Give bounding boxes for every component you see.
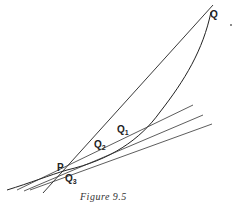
label-q1-sub: 1 [125,129,129,136]
label-p-text: P [57,162,64,173]
secant-pq2 [24,115,203,191]
diagram-svg [0,0,236,206]
label-q3-sub: 3 [73,178,77,185]
curve [7,12,211,190]
label-p: P [57,163,64,173]
figure-caption: Figure 9.5 [80,191,127,202]
label-q1-text: Q [117,124,125,135]
stray-mark [230,24,232,26]
label-q1: Q1 [117,125,129,136]
figure-9-5: Q Q1 Q2 P Q3 Figure 9.5 [0,0,236,206]
label-q3-text: Q [65,173,73,184]
label-q: Q [210,10,218,20]
label-q2: Q2 [94,140,106,151]
label-q2-sub: 2 [102,144,106,151]
label-q2-text: Q [94,139,102,150]
label-q-text: Q [210,9,218,20]
label-q3: Q3 [65,174,77,185]
